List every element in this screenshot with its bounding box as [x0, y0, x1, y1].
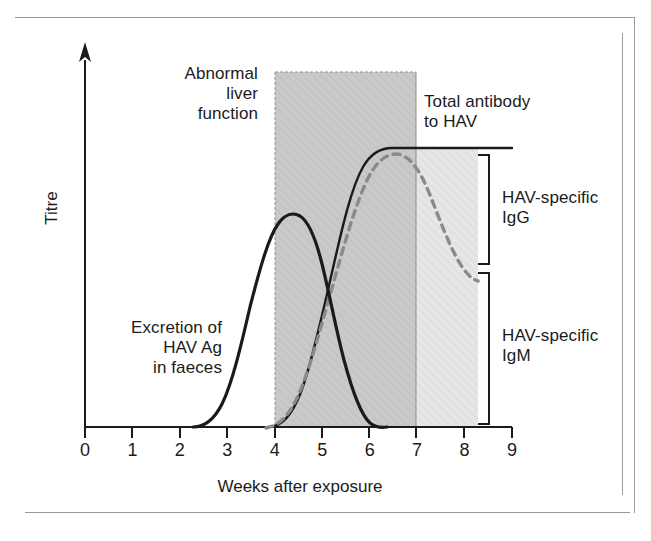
- x-tick-label-6: 6: [357, 440, 383, 461]
- bracket-hav-specific-igg: [478, 155, 489, 264]
- figure-page: Abnormal liver function Total antibody t…: [0, 0, 651, 541]
- x-tick-label-3: 3: [214, 440, 240, 461]
- bracket-hav-specific-igm: [478, 273, 489, 424]
- x-axis-ticks: [85, 427, 512, 438]
- x-axis-label: Weeks after exposure: [150, 477, 450, 497]
- abnormal-liver-function-band: [275, 72, 416, 427]
- x-tick-label-5: 5: [309, 440, 335, 461]
- y-axis-label: Titre: [42, 153, 62, 263]
- annotation-abnormal-liver-function: Abnormal liver function: [108, 64, 258, 124]
- annotation-excretion-hav-ag-in-faeces: Excretion of HAV Ag in faeces: [72, 318, 222, 378]
- annotation-hav-specific-igm: HAV-specific IgM: [502, 326, 642, 366]
- annotation-total-antibody-to-hav: Total antibody to HAV: [424, 92, 614, 132]
- x-tick-label-2: 2: [167, 440, 193, 461]
- x-tick-label-4: 4: [262, 440, 288, 461]
- x-tick-label-1: 1: [119, 440, 145, 461]
- range-brackets: [478, 155, 489, 424]
- x-tick-label-8: 8: [452, 440, 478, 461]
- annotation-hav-specific-igg: HAV-specific IgG: [502, 188, 642, 228]
- x-tick-label-9: 9: [499, 440, 525, 461]
- y-axis-arrowhead: [79, 42, 91, 62]
- x-tick-label-0: 0: [72, 440, 98, 461]
- x-tick-label-7: 7: [404, 440, 430, 461]
